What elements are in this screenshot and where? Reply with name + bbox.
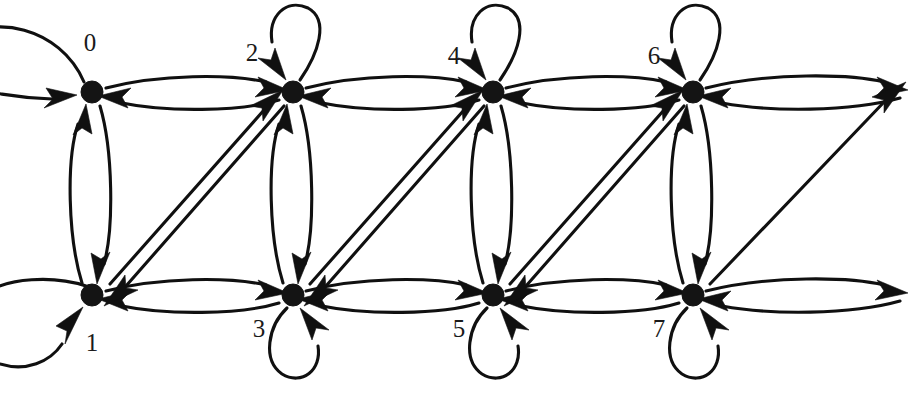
self-loop-3: [270, 308, 329, 378]
edge-0-to-2: [106, 77, 288, 97]
node-dot-2[interactable]: [282, 81, 304, 103]
node-dot-5[interactable]: [482, 284, 504, 306]
edge-7-to-wrap-right-bottom: [706, 279, 908, 300]
edge-4-to-3: [304, 106, 484, 306]
edge-5-to-4: [471, 104, 493, 283]
self-loop-6: [658, 5, 720, 80]
node-dot-6[interactable]: [682, 81, 704, 103]
graph-diagram: 0 1 2 3 4 5 6 7: [0, 0, 923, 400]
edge-6-to-wrap-right-top: [706, 76, 908, 97]
edge-0-to-1: [91, 106, 111, 284]
edge-6-to-5: [504, 106, 684, 306]
edge-4-to-6: [506, 77, 688, 97]
self-loop-2: [258, 5, 320, 80]
edge-2-to-1: [104, 106, 284, 306]
edge-7-to-6: [671, 104, 693, 283]
node-label-2: 2: [246, 39, 259, 66]
self-loop-7: [670, 308, 729, 378]
edge-wrap-right-bottom-to-7: [698, 291, 900, 312]
node-dot-3[interactable]: [282, 284, 304, 306]
graph-canvas: 0 1 2 3 4 5 6 7: [0, 0, 923, 400]
edge-3-to-4: [310, 90, 483, 284]
edge-5-to-6: [510, 90, 683, 284]
self-loop-5: [470, 308, 529, 378]
edge-1-to-2: [110, 90, 283, 284]
edge-wrap-right-top-to-6: [698, 88, 900, 109]
node-dot-0[interactable]: [81, 81, 103, 103]
self-loop-4: [458, 5, 520, 80]
self-loop-0: [0, 27, 84, 108]
self-loop-1: [0, 279, 86, 366]
node-label-1: 1: [86, 329, 99, 356]
node-dot-1[interactable]: [81, 284, 103, 306]
node-label-4: 4: [448, 42, 461, 69]
node-1[interactable]: 1: [81, 284, 103, 356]
edge-4-to-5: [492, 106, 512, 284]
edge-3-to-2: [271, 104, 293, 283]
edge-2-to-4: [306, 77, 488, 97]
edge-6-to-7: [692, 106, 712, 284]
node-label-5: 5: [453, 315, 466, 342]
edge-1-to-0: [70, 104, 92, 283]
node-dot-4[interactable]: [482, 81, 504, 103]
node-dot-7[interactable]: [682, 284, 704, 306]
edge-7-to-wrap-right-top: [710, 82, 906, 284]
node-0[interactable]: 0: [81, 29, 103, 103]
node-label-3: 3: [253, 315, 266, 342]
node-label-0: 0: [84, 29, 97, 56]
edge-2-to-3: [292, 106, 312, 284]
node-label-7: 7: [653, 315, 666, 342]
node-label-6: 6: [648, 42, 661, 69]
